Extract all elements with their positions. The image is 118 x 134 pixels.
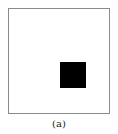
figure-caption: (a) bbox=[0, 118, 118, 130]
figure-frame bbox=[8, 8, 110, 114]
black-square bbox=[60, 62, 86, 88]
